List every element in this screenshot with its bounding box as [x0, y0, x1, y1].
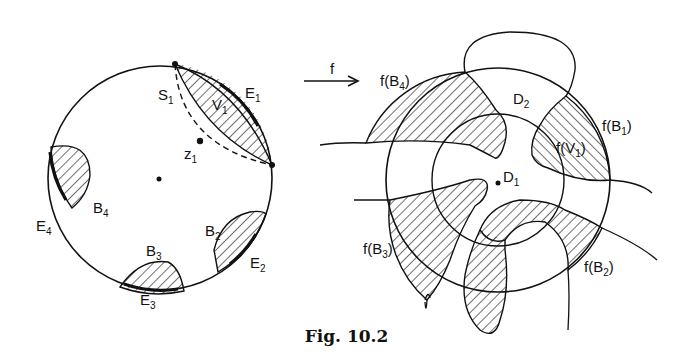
left-disk: S1 V1 E1 z1 B4 E4 B3 E3 B2 E2 [36, 61, 275, 311]
point-z1 [197, 138, 203, 144]
arrow-label-f: f [330, 60, 335, 77]
label-s1: S1 [158, 86, 174, 106]
label-b2: B2 [205, 222, 221, 242]
right-disk: f(B4) D2 f(B1) f(V1) D1 f(B3) f(B2) [320, 32, 657, 333]
label-e4: E4 [36, 217, 52, 237]
label-e1: E1 [245, 84, 261, 104]
label-e2: E2 [250, 254, 266, 274]
label-fb1: f(B1) [602, 117, 632, 137]
center-point [157, 177, 162, 182]
label-fb2: f(B2) [584, 258, 614, 278]
point-s1 [172, 61, 178, 67]
label-d1: D1 [503, 168, 520, 188]
center-d1 [496, 181, 501, 186]
label-fb3: f(B3) [363, 240, 393, 260]
map-arrow: f [304, 60, 358, 86]
label-b4: B4 [93, 199, 109, 219]
label-d2: D2 [513, 90, 530, 110]
label-z1: z1 [184, 145, 198, 165]
figure-caption: Fig. 10.2 [0, 326, 693, 346]
label-b3: B3 [146, 242, 162, 262]
label-fb4: f(B4) [380, 72, 410, 92]
figure-canvas: S1 V1 E1 z1 B4 E4 B3 E3 B2 E2 f [0, 0, 693, 362]
point-endpoint [269, 162, 275, 168]
